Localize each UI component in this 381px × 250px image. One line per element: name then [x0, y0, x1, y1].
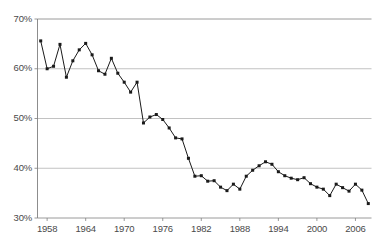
data-point-marker	[52, 65, 55, 68]
data-point-marker	[367, 202, 370, 205]
data-point-marker	[277, 170, 280, 173]
data-point-marker	[270, 163, 273, 166]
y-tick-label-50: 50%	[2, 112, 32, 123]
data-point-marker	[142, 121, 145, 124]
data-point-marker	[161, 118, 164, 121]
data-point-marker	[148, 116, 151, 119]
x-tick-label-1976: 1976	[143, 223, 183, 234]
plot-area: 70%60%50%40%30% 195819641970197619821988…	[0, 0, 381, 250]
data-point-marker	[97, 69, 100, 72]
data-point-marker	[309, 182, 312, 185]
data-point-marker	[315, 186, 318, 189]
x-tick-label-1988: 1988	[220, 223, 260, 234]
data-point-marker	[116, 72, 119, 75]
data-point-marker	[136, 81, 139, 84]
data-point-marker	[225, 189, 228, 192]
data-point-marker	[360, 189, 363, 192]
data-point-marker	[123, 81, 126, 84]
data-point-marker	[290, 177, 293, 180]
data-point-marker	[46, 67, 49, 70]
y-tick-label-30: 30%	[2, 212, 32, 223]
data-point-marker	[206, 180, 209, 183]
data-point-marker	[39, 39, 42, 42]
data-point-marker	[341, 186, 344, 189]
x-tick-label-1982: 1982	[181, 223, 221, 234]
x-tick-label-2000: 2000	[297, 223, 337, 234]
data-point-marker	[322, 188, 325, 191]
data-point-marker	[65, 76, 68, 79]
data-point-marker	[213, 179, 216, 182]
data-point-marker	[258, 164, 261, 167]
x-tick-label-2006: 2006	[335, 223, 375, 234]
x-tick-label-1958: 1958	[27, 223, 67, 234]
data-point-marker	[155, 113, 158, 116]
data-line	[41, 41, 369, 204]
data-point-marker	[110, 57, 113, 60]
data-point-marker	[245, 175, 248, 178]
x-tick-label-1994: 1994	[258, 223, 298, 234]
data-point-marker	[335, 183, 338, 186]
data-point-marker	[58, 43, 61, 46]
data-point-marker	[251, 169, 254, 172]
data-point-marker	[168, 126, 171, 129]
y-tick-label-70: 70%	[2, 13, 32, 24]
y-tick-label-60: 60%	[2, 62, 32, 73]
x-tick-label-1964: 1964	[66, 223, 106, 234]
data-point-marker	[174, 136, 177, 139]
data-point-marker	[238, 188, 241, 191]
data-point-marker	[354, 183, 357, 186]
y-tick-label-40: 40%	[2, 162, 32, 173]
data-point-marker	[181, 137, 184, 140]
data-point-marker	[232, 183, 235, 186]
data-point-marker	[348, 190, 351, 193]
data-point-marker	[303, 176, 306, 179]
data-point-marker	[328, 194, 331, 197]
line-chart-svg	[0, 0, 381, 250]
data-point-marker	[78, 48, 81, 51]
data-point-marker	[84, 42, 87, 45]
x-tick-label-1970: 1970	[104, 223, 144, 234]
data-point-marker	[193, 175, 196, 178]
chart-container: 70%60%50%40%30% 195819641970197619821988…	[0, 0, 381, 250]
data-point-marker	[296, 178, 299, 181]
data-point-marker	[200, 174, 203, 177]
data-point-marker	[283, 174, 286, 177]
data-point-marker	[71, 59, 74, 62]
data-point-marker	[264, 160, 267, 163]
data-point-marker	[91, 53, 94, 56]
data-point-marker	[187, 157, 190, 160]
data-point-marker	[219, 186, 222, 189]
data-point-marker	[129, 91, 132, 94]
data-point-marker	[103, 73, 106, 76]
